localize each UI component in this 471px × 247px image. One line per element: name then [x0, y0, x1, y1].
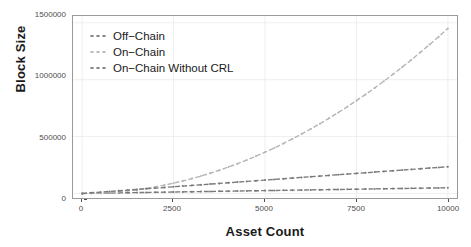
series-point: [246, 159, 248, 161]
series-point: [447, 166, 449, 168]
series-point: [246, 180, 248, 182]
series-point: [163, 191, 165, 193]
series-point: [163, 184, 165, 186]
series-point: [227, 166, 229, 168]
series-point: [355, 172, 357, 174]
series-point: [419, 187, 421, 189]
series-point: [429, 187, 431, 189]
series-point: [227, 190, 229, 192]
series-point: [136, 188, 138, 190]
series-point: [447, 28, 449, 30]
legend-label-off-chain: Off−Chain: [113, 30, 165, 42]
series-point: [218, 169, 220, 171]
x-tick-label-0: 0: [51, 205, 111, 213]
series-point: [237, 181, 239, 183]
series-point: [374, 188, 376, 190]
series-point: [264, 179, 266, 181]
legend-item-on-chain[interactable]: On−Chain: [89, 44, 234, 60]
series-point: [392, 170, 394, 172]
series-point: [383, 188, 385, 190]
legend-label-on-chain: On−Chain: [113, 46, 165, 58]
series-point: [136, 192, 138, 194]
series-point: [438, 166, 440, 168]
series-point: [273, 147, 275, 149]
series-point: [319, 189, 321, 191]
series-point: [99, 191, 101, 193]
series-point: [429, 167, 431, 169]
series-point: [429, 44, 431, 46]
series-point: [200, 175, 202, 177]
x-tick-mark-4: [448, 199, 449, 202]
series-point: [447, 187, 449, 189]
series-point: [301, 189, 303, 191]
series-point: [191, 178, 193, 180]
series-point: [337, 188, 339, 190]
series-point: [301, 133, 303, 135]
series-point: [346, 188, 348, 190]
series-point: [200, 184, 202, 186]
series-point: [173, 186, 175, 188]
legend-key-icon-on-chain: [89, 46, 107, 58]
series-point: [310, 176, 312, 178]
legend-key-icon-off-chain: [89, 30, 107, 42]
x-tick-mark-2: [264, 199, 265, 202]
series-point: [282, 143, 284, 145]
series-point: [438, 36, 440, 38]
series-point: [282, 189, 284, 191]
series-point: [355, 100, 357, 102]
series-point: [264, 151, 266, 153]
series-point: [365, 93, 367, 95]
series-point: [282, 178, 284, 180]
series-point: [255, 190, 257, 192]
series-point: [365, 172, 367, 174]
series-point: [401, 66, 403, 68]
series-point: [392, 73, 394, 75]
series-point: [355, 188, 357, 190]
series-point: [438, 187, 440, 189]
series-point: [182, 180, 184, 182]
x-tick-mark-0: [81, 199, 82, 202]
legend-item-off-chain[interactable]: Off−Chain: [89, 28, 234, 44]
series-point: [319, 123, 321, 125]
series-point: [191, 191, 193, 193]
series-point: [81, 192, 83, 194]
series-point: [237, 163, 239, 165]
x-tick-label-3: 7500: [326, 205, 386, 213]
legend-label-on-chain-without-crl: On−Chain Without CRL: [113, 62, 234, 74]
series-point: [291, 177, 293, 179]
series-point: [227, 182, 229, 184]
series-point: [346, 106, 348, 108]
series-point: [374, 87, 376, 89]
series-point: [410, 168, 412, 170]
series-point: [383, 170, 385, 172]
series-point: [319, 175, 321, 177]
series-point: [328, 117, 330, 119]
series-point: [154, 191, 156, 193]
series-point: [310, 128, 312, 130]
series-point: [273, 189, 275, 191]
series-point: [291, 138, 293, 140]
series-point: [410, 59, 412, 61]
series-point: [419, 168, 421, 170]
chart-figure: Block Size Asset Count 1500000 1000000 5…: [0, 0, 471, 247]
series-point: [218, 182, 220, 184]
series-point: [191, 184, 193, 186]
series-point: [127, 192, 129, 194]
series-point: [182, 191, 184, 193]
legend-key-icon-on-chain-without-crl: [89, 62, 107, 74]
legend-item-on-chain-without-crl[interactable]: On−Chain Without CRL: [89, 60, 234, 76]
series-point: [209, 172, 211, 174]
series-point: [209, 183, 211, 185]
series-point: [374, 171, 376, 173]
series-point: [328, 174, 330, 176]
x-tick-mark-1: [172, 199, 173, 202]
series-point: [255, 155, 257, 157]
series-point: [392, 188, 394, 190]
series-point: [255, 180, 257, 182]
series-point: [127, 189, 129, 191]
series-point: [365, 188, 367, 190]
series-point: [237, 190, 239, 192]
series-point: [410, 187, 412, 189]
series-point: [145, 188, 147, 190]
series-point: [401, 169, 403, 171]
